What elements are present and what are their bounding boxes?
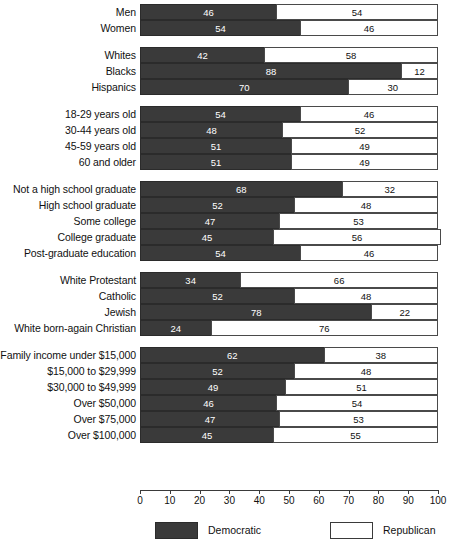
x-axis-tick-label: 70 <box>343 495 354 506</box>
row-label: White Protestant <box>0 272 140 288</box>
bar-segment-republican: 46 <box>300 106 438 122</box>
row-bars: 5149 <box>140 154 450 170</box>
row-label: Whites <box>0 47 140 63</box>
chart-row: $15,000 to $29,9995248 <box>0 363 450 379</box>
x-axis-tick-label: 0 <box>137 495 143 506</box>
row-bars: 7822 <box>140 304 450 320</box>
row-label: Women <box>0 20 140 36</box>
bar-segment-democratic: 42 <box>140 47 265 63</box>
chart-row: Post-graduate education5446 <box>0 245 450 261</box>
bar-segment-republican: 32 <box>342 181 438 197</box>
x-axis-tick <box>319 490 320 494</box>
row-label: Blacks <box>0 63 140 79</box>
bar-segment-democratic: 52 <box>140 288 295 304</box>
bar-segment-democratic: 46 <box>140 395 277 411</box>
row-bars: 4654 <box>140 4 450 20</box>
bar-segment-democratic: 49 <box>140 379 286 395</box>
bar-segment-democratic: 47 <box>140 213 280 229</box>
row-bars: 6238 <box>140 347 450 363</box>
bar-segment-democratic: 45 <box>140 229 274 245</box>
bar-segment-republican: 38 <box>324 347 438 363</box>
row-label: Men <box>0 4 140 20</box>
row-bars: 5149 <box>140 138 450 154</box>
chart-row: Over $75,0004753 <box>0 411 450 427</box>
row-label: Not a high school graduate <box>0 181 140 197</box>
x-axis-tick <box>378 490 379 494</box>
x-axis-tick-label: 100 <box>430 495 447 506</box>
bar-segment-democratic: 24 <box>140 320 212 336</box>
chart-row: 30-44 years old4852 <box>0 122 450 138</box>
row-bars: 7030 <box>140 79 450 95</box>
chart-row: College graduate4556 <box>0 229 450 245</box>
chart-row: Over $100,0004555 <box>0 427 450 443</box>
x-axis-tick-label: 20 <box>194 495 205 506</box>
x-axis-tick-label: 30 <box>224 495 235 506</box>
row-bars: 4852 <box>140 122 450 138</box>
chart-row: White born-again Christian2476 <box>0 320 450 336</box>
row-bars: 5248 <box>140 288 450 304</box>
stacked-bar-chart: Men4654Women5446Whites4258Blacks8812Hisp… <box>0 0 450 546</box>
row-label: 45-59 years old <box>0 138 140 154</box>
bar-segment-republican: 48 <box>294 288 438 304</box>
chart-row: Men4654 <box>0 4 450 20</box>
legend-swatch-republican <box>330 522 373 539</box>
x-axis-tick <box>259 490 260 494</box>
bar-segment-republican: 53 <box>279 411 438 427</box>
chart-row: White Protestant3466 <box>0 272 450 288</box>
chart-row: Jewish7822 <box>0 304 450 320</box>
chart-row: 60 and older5149 <box>0 154 450 170</box>
row-bars: 4654 <box>140 395 450 411</box>
chart-row: Over $50,0004654 <box>0 395 450 411</box>
bar-segment-republican: 12 <box>401 63 438 79</box>
chart-row: 18-29 years old5446 <box>0 106 450 122</box>
bar-segment-democratic: 78 <box>140 304 372 320</box>
chart-row: Whites4258 <box>0 47 450 63</box>
x-axis: 0102030405060708090100 <box>140 490 440 510</box>
bar-segment-democratic: 47 <box>140 411 280 427</box>
legend-swatch-democratic <box>155 522 198 539</box>
row-bars: 6832 <box>140 181 450 197</box>
chart-legend: Democratic Republican <box>0 521 450 543</box>
x-axis-tick <box>349 490 350 494</box>
bar-segment-republican: 49 <box>291 138 438 154</box>
x-axis-tick-label: 40 <box>254 495 265 506</box>
row-label: $15,000 to $29,999 <box>0 363 140 379</box>
chart-row: Hispanics7030 <box>0 79 450 95</box>
bar-segment-republican: 55 <box>273 427 438 443</box>
bar-segment-democratic: 48 <box>140 122 283 138</box>
bar-segment-democratic: 45 <box>140 427 274 443</box>
bar-segment-republican: 48 <box>294 197 438 213</box>
bar-segment-republican: 49 <box>291 154 438 170</box>
chart-row: $30,000 to $49,9994951 <box>0 379 450 395</box>
bar-segment-republican: 51 <box>285 379 438 395</box>
x-axis-tick <box>170 490 171 494</box>
bar-segment-republican: 53 <box>279 213 438 229</box>
row-bars: 5248 <box>140 363 450 379</box>
bar-segment-democratic: 52 <box>140 363 295 379</box>
bar-segment-republican: 22 <box>371 304 438 320</box>
chart-row: Women5446 <box>0 20 450 36</box>
row-label: 18-29 years old <box>0 106 140 122</box>
chart-row: Blacks8812 <box>0 63 450 79</box>
row-label: 60 and older <box>0 154 140 170</box>
bar-segment-democratic: 51 <box>140 138 292 154</box>
row-bars: 3466 <box>140 272 450 288</box>
row-label: Over $75,000 <box>0 411 140 427</box>
bar-segment-democratic: 52 <box>140 197 295 213</box>
x-axis-tick <box>200 490 201 494</box>
bar-segment-democratic: 34 <box>140 272 241 288</box>
row-label: College graduate <box>0 229 140 245</box>
row-bars: 5446 <box>140 20 450 36</box>
bar-segment-republican: 54 <box>276 395 438 411</box>
chart-row: Not a high school graduate6832 <box>0 181 450 197</box>
bar-segment-democratic: 62 <box>140 347 325 363</box>
x-axis-tick <box>438 490 439 494</box>
row-label: Catholic <box>0 288 140 304</box>
legend-item-republican: Republican <box>330 521 436 539</box>
chart-row: High school graduate5248 <box>0 197 450 213</box>
row-label: White born-again Christian <box>0 320 140 336</box>
bar-segment-democratic: 51 <box>140 154 292 170</box>
x-axis-tick-label: 50 <box>283 495 294 506</box>
row-bars: 5446 <box>140 245 450 261</box>
legend-label-republican: Republican <box>383 524 436 536</box>
